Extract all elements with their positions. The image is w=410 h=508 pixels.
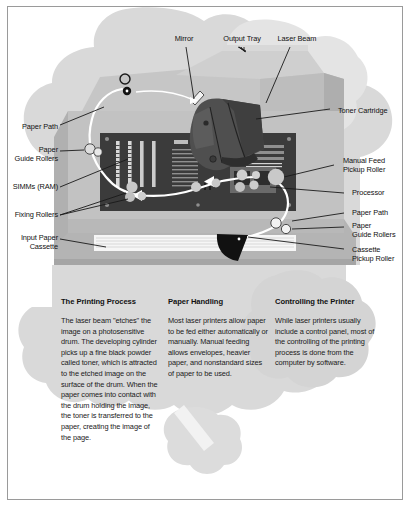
callout-cassette-pickup-roller: Cassette Pickup Roller [352, 246, 394, 263]
paper-guide-roller-left-b [94, 148, 102, 156]
callout-fixing-rollers: Fixing Rollers [10, 211, 58, 220]
callout-input-paper-cassette: Input Paper Cassette [10, 234, 58, 251]
column-heading: The Printing Process [61, 297, 161, 307]
text-column-controlling-the-printer: Controlling the Printer While laser prin… [275, 297, 379, 369]
callout-paper-path-left: Paper Path [10, 123, 58, 132]
column-heading: Paper Handling [168, 297, 268, 307]
transport-roller-c [237, 170, 248, 181]
column-body: The laser beam "etches" the image on a p… [61, 316, 161, 443]
transport-roller-f [252, 171, 260, 179]
transport-roller-d [235, 182, 245, 192]
laser-printer-cutaway-illustration [8, 7, 402, 275]
callout-simms-ram: SIMMs (RAM) [10, 183, 58, 192]
column-heading: Controlling the Printer [275, 297, 379, 307]
transport-roller-e [249, 180, 258, 189]
explanatory-text-panel: The Printing Process The laser beam "etc… [16, 277, 410, 507]
figure-page: Mirror Output Tray Laser Beam Toner Cart… [0, 0, 410, 508]
column-body: Most laser printers allow paper to be fe… [168, 316, 268, 380]
callout-laser-beam: Laser Beam [272, 35, 322, 44]
fixing-roller-b [125, 192, 135, 202]
text-column-printing-process: The Printing Process The laser beam "etc… [61, 297, 161, 443]
callout-paper-guide-rollers-left: Paper Guide Rollers [10, 146, 58, 163]
manual-feed-pickup-roller [268, 169, 284, 185]
transport-roller-a [191, 182, 201, 192]
text-column-paper-handling: Paper Handling Most laser printers allow… [168, 297, 268, 380]
callout-output-tray: Output Tray [218, 35, 266, 44]
callout-paper-guide-rollers-right: Paper Guide Rollers [352, 222, 395, 239]
callout-paper-path-right: Paper Path [352, 209, 388, 218]
transport-roller-b [212, 179, 221, 188]
figure-frame: Mirror Output Tray Laser Beam Toner Cart… [7, 6, 403, 500]
callout-manual-feed-pickup-roller: Manual Feed Pickup Roller [343, 157, 385, 174]
column-body: While laser printers usually include a c… [275, 316, 379, 369]
toner-cartridge-body [190, 99, 264, 171]
fixing-roller-c [138, 192, 146, 200]
paper-guide-roller-right-b [281, 224, 290, 233]
fixing-roller-a [126, 181, 137, 192]
output-tray-surface [222, 45, 308, 51]
callout-toner-cartridge: Toner Cartridge [338, 107, 387, 116]
input-paper-cassette-stack [94, 235, 296, 251]
paper-guide-roller-right-a [271, 218, 281, 228]
callout-processor: Processor [352, 189, 384, 198]
callout-mirror: Mirror [160, 35, 208, 44]
